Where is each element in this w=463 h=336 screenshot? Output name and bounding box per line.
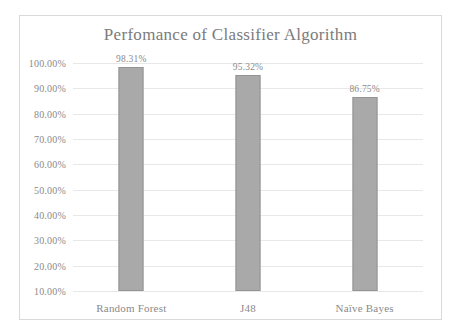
y-axis-tick-label: 70.00% — [34, 133, 66, 144]
x-axis-category-label: Naïve Bayes — [336, 302, 394, 314]
y-axis-tick-label: 10.00% — [34, 286, 66, 297]
x-axis-category-label: J48 — [240, 302, 256, 314]
bar-value-label: 95.32% — [233, 62, 264, 72]
gridline — [73, 291, 423, 292]
y-axis-tick-label: 90.00% — [34, 83, 66, 94]
bar-group: 98.31%Random Forest — [73, 63, 190, 291]
y-axis-tick-label: 80.00% — [34, 108, 66, 119]
y-axis-tick-label: 50.00% — [34, 184, 66, 195]
y-axis-tick-label: 40.00% — [34, 209, 66, 220]
chart-title: Perfomance of Classifier Algorithm — [20, 25, 441, 45]
bar-value-label: 86.75% — [349, 84, 380, 94]
y-axis-tick-label: 100.00% — [29, 58, 66, 69]
y-axis-tick-label: 20.00% — [34, 260, 66, 271]
bar[interactable] — [352, 97, 377, 291]
bar[interactable] — [235, 75, 260, 291]
bar-group: 86.75%Naïve Bayes — [306, 63, 423, 291]
plot-area: 10.00%20.00%30.00%40.00%50.00%60.00%70.0… — [73, 63, 423, 291]
bar[interactable] — [119, 67, 144, 291]
y-axis-tick-label: 60.00% — [34, 159, 66, 170]
bar-value-label: 98.31% — [116, 54, 147, 64]
x-axis-category-label: Random Forest — [96, 302, 166, 314]
chart-frame: Perfomance of Classifier Algorithm 10.00… — [19, 15, 442, 320]
y-axis-tick-label: 30.00% — [34, 235, 66, 246]
bar-group: 95.32%J48 — [190, 63, 307, 291]
